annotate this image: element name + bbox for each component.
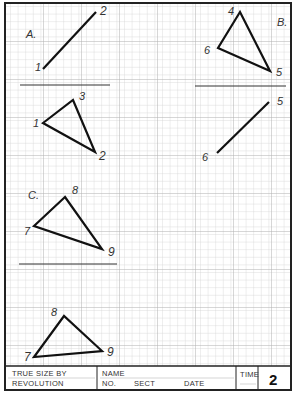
title-block-title-line2: REVOLUTION (12, 380, 64, 388)
problem-label-b: B. (277, 17, 287, 28)
title-block-title-line1: TRUE SIZE BY (12, 370, 67, 378)
point-label-6b: 6 (202, 152, 208, 163)
grid-and-drawing (0, 0, 295, 394)
point-label-6: 6 (204, 45, 210, 56)
problem-label-a: A. (26, 29, 36, 40)
no-field-label: NO. (102, 380, 116, 388)
point-label-8: 8 (72, 185, 78, 196)
point-label-9b: 9 (107, 346, 114, 358)
point-label-3: 3 (79, 91, 85, 102)
point-label-4: 4 (228, 6, 234, 17)
sheet-number: 2 (269, 372, 277, 387)
drawing-sheet: A. 1 2 3 1 2 B. 4 6 5 5 6 C. 8 7 9 8 7 9… (0, 0, 295, 394)
point-label-7: 7 (24, 226, 30, 237)
point-label-8b: 8 (51, 307, 57, 318)
point-label-9: 9 (108, 246, 115, 258)
point-label-5b: 5 (277, 96, 283, 107)
date-field-label: DATE (184, 380, 205, 388)
point-label-2: 2 (100, 5, 107, 17)
point-label-1: 1 (35, 62, 41, 73)
sect-field-label: SECT (134, 380, 155, 388)
point-label-2b: 2 (99, 150, 106, 162)
point-label-1b: 1 (33, 118, 39, 129)
problem-label-c: C. (28, 190, 39, 201)
point-label-7b: 7 (24, 351, 31, 363)
time-field-label: TIME (240, 371, 259, 379)
name-field-label: NAME (102, 370, 125, 378)
point-label-5: 5 (276, 67, 282, 78)
